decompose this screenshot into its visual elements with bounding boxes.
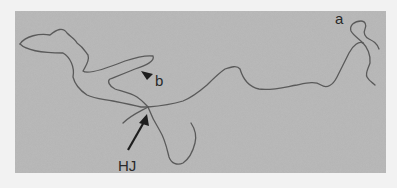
- micrograph-panel: a b HJ: [15, 11, 386, 173]
- label-hj: HJ: [118, 158, 136, 173]
- label-b: b: [155, 73, 163, 88]
- label-a: a: [335, 11, 343, 26]
- micrograph-image: [15, 11, 386, 173]
